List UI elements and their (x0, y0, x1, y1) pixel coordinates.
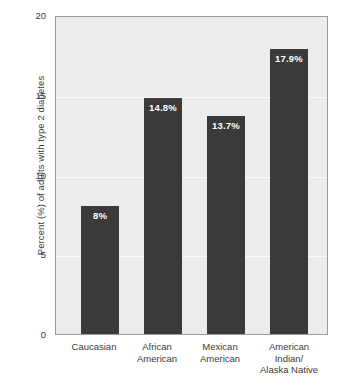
bar-mexican-american[interactable]: 13.7% (207, 116, 245, 335)
bar-african-american[interactable]: 14.8% (144, 98, 182, 334)
y-tick-label-20: 20 (20, 11, 46, 21)
bar-chart: Percent (%) of adults with type 2 diabet… (0, 0, 346, 385)
y-tick-label-15: 15 (20, 91, 46, 101)
bar-value-african-american: 14.8% (144, 103, 182, 113)
bar-value-mexican-american: 13.7% (207, 121, 245, 131)
plot-inner: 8% 14.8% 13.7% 17.9% (56, 17, 327, 334)
y-tick-label-0: 0 (20, 330, 46, 340)
plot-area: 8% 14.8% 13.7% 17.9% (55, 16, 328, 335)
bar-value-caucasian: 8% (81, 211, 119, 221)
bar-value-american-indian-alaska-native: 17.9% (270, 54, 308, 64)
y-tick-label-10: 10 (20, 171, 46, 181)
x-label-american-indian-line-1: American (239, 341, 339, 353)
x-label-american-indian-line-3: Alaska Native (239, 364, 339, 376)
bar-caucasian[interactable]: 8% (81, 206, 119, 334)
y-tick-label-5: 5 (20, 250, 46, 260)
bar-american-indian-alaska-native[interactable]: 17.9% (270, 49, 308, 335)
x-label-american-indian-alaska-native: American Indian/ Alaska Native (239, 341, 339, 376)
x-label-american-indian-line-2: Indian/ (239, 353, 339, 365)
